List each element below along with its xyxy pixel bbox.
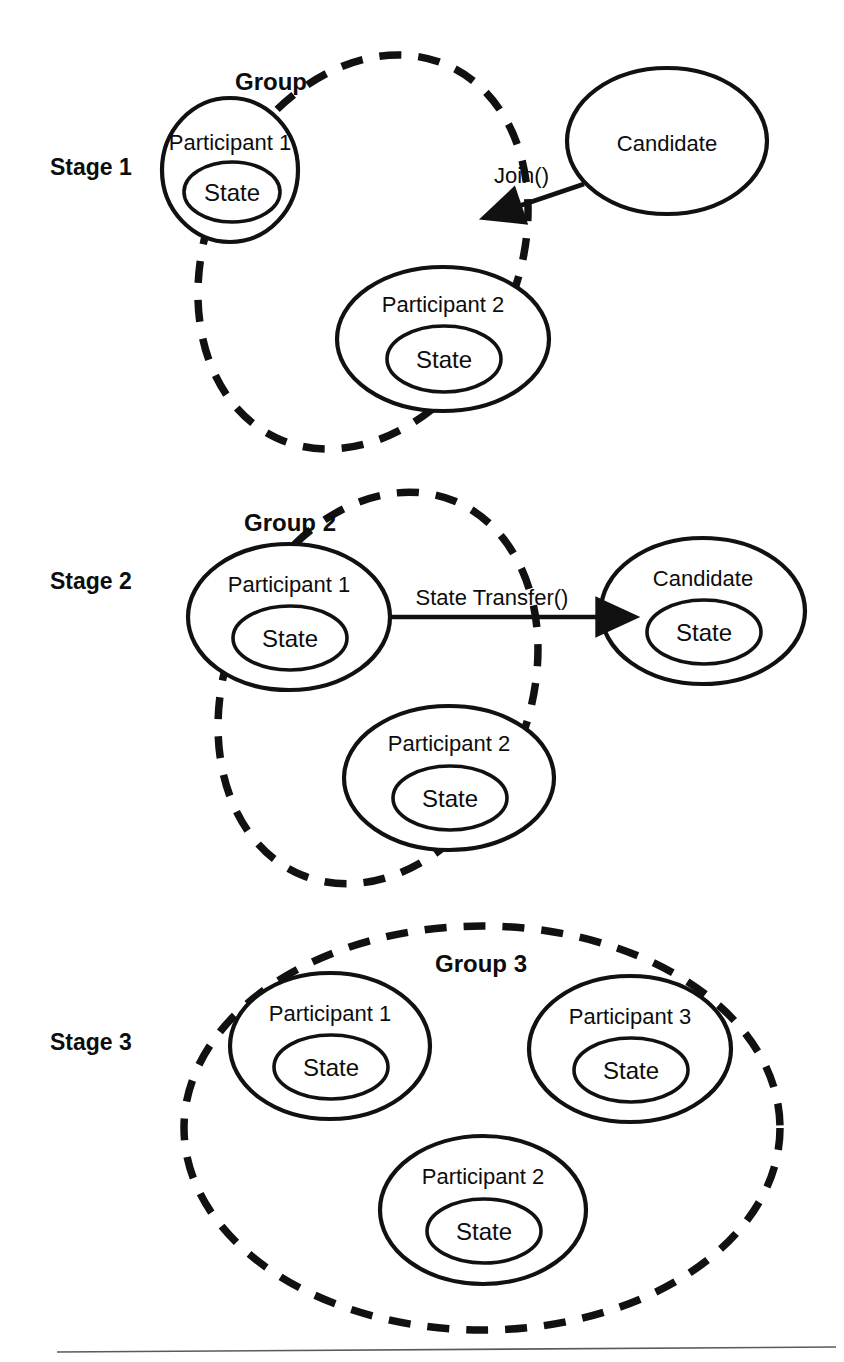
stage-3-section: Stage 3 Group 3 Participant 1 State Part… — [50, 926, 780, 1330]
stage-2-candidate: Candidate State — [601, 538, 805, 684]
join-edge-label: Join() — [494, 163, 549, 188]
state-label: State — [262, 625, 318, 652]
stage-1-participant-1: Participant 1 State — [162, 98, 298, 242]
stage-1-group-label: Group — [235, 68, 307, 95]
group-membership-stages-diagram: Stage 1 Group Participant 1 State Partic… — [0, 0, 844, 1362]
stage-1-label: Stage 1 — [50, 154, 132, 180]
stage-2-section: Stage 2 Group 2 Participant 1 State Part… — [50, 444, 805, 932]
stage-2-participant-1: Participant 1 State — [188, 544, 390, 690]
state-label: State — [456, 1218, 512, 1245]
state-label: State — [603, 1057, 659, 1084]
participant-name-label: Participant 1 — [269, 1001, 391, 1026]
participant-name-label: Participant 2 — [382, 292, 504, 317]
state-label: State — [676, 619, 732, 646]
participant-name-label: Participant 2 — [422, 1164, 544, 1189]
stage-1-join-edge: Join() — [494, 163, 584, 206]
stage-3-group-label: Group 3 — [435, 950, 527, 977]
stage-1-group-boundary — [136, 1, 590, 504]
stage-1-candidate: Candidate — [567, 68, 767, 214]
participant-name-label: Participant 3 — [569, 1004, 691, 1029]
participant-name-label: Participant 1 — [169, 130, 291, 155]
candidate-name-label: Candidate — [653, 566, 753, 591]
participant-name-label: Participant 1 — [228, 572, 350, 597]
stage-2-group-label: Group 2 — [244, 509, 336, 536]
footer-separator-rule — [57, 1347, 836, 1352]
stage-2-group-boundary — [161, 444, 594, 932]
state-label: State — [422, 785, 478, 812]
stage-1-participant-2: Participant 2 State — [337, 267, 549, 411]
state-label: State — [416, 346, 472, 373]
stage-3-participant-1: Participant 1 State — [230, 973, 430, 1119]
stage-2-state-transfer-edge: State Transfer() — [390, 585, 598, 617]
stage-3-participant-3: Participant 3 State — [529, 976, 731, 1122]
state-label: State — [303, 1054, 359, 1081]
state-label: State — [204, 179, 260, 206]
stage-3-label: Stage 3 — [50, 1029, 132, 1055]
stage-2-participant-2: Participant 2 State — [344, 706, 554, 850]
candidate-name-label: Candidate — [617, 131, 717, 156]
stage-3-participant-2: Participant 2 State — [380, 1136, 586, 1284]
stage-2-label: Stage 2 — [50, 568, 132, 594]
state-transfer-edge-label: State Transfer() — [416, 585, 569, 610]
stage-1-section: Stage 1 Group Participant 1 State Partic… — [50, 1, 767, 504]
participant-name-label: Participant 2 — [388, 731, 510, 756]
diagram-page: Stage 1 Group Participant 1 State Partic… — [0, 0, 844, 1362]
